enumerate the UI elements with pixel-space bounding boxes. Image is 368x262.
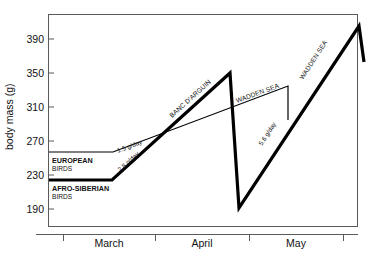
legend-european-sublabel: BIRDS [52,165,73,172]
body-mass-chart-svg: body mass (g) 390 350 310 270 230 190 M [0,0,368,262]
y-tick-label-350: 350 [26,67,44,79]
y-axis-title: body mass (g) [3,83,15,150]
chart-background [0,0,368,262]
y-tick-label-230: 230 [26,169,44,181]
chart-figure: body mass (g) 390 350 310 270 230 190 M [0,0,368,262]
month-label-may: May [286,237,307,249]
legend-afro-siberian-sublabel: BIRDS [52,193,73,200]
legend-afro-siberian-label: AFRO-SIBERIAN [52,184,109,193]
y-tick-label-310: 310 [26,101,44,113]
y-tick-label-390: 390 [26,33,44,45]
month-label-april: April [191,237,212,249]
month-label-march: March [94,237,123,249]
legend-european-label: EUROPEAN [52,156,93,165]
y-tick-label-190: 190 [26,203,44,215]
y-tick-label-270: 270 [26,135,44,147]
